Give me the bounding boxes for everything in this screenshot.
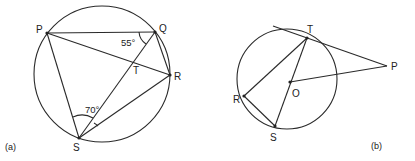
tangent-TP xyxy=(273,26,387,66)
label-T-b: T xyxy=(307,24,313,35)
segment-OP xyxy=(290,66,387,82)
figure-a: P Q R S T 55° 70° (a) xyxy=(5,6,181,153)
geometry-diagram: P Q R S T 55° 70° (a) T O P R S (b) xyxy=(0,0,415,161)
label-R-a: R xyxy=(174,71,181,82)
label-P-b: P xyxy=(391,61,398,72)
angle-arc-S xyxy=(73,115,93,118)
segment-PR xyxy=(47,33,170,75)
label-P-a: P xyxy=(36,24,43,35)
angle-arc-S2 xyxy=(94,123,98,126)
angle-arc-Q xyxy=(139,32,146,44)
caption-a: (a) xyxy=(5,142,16,152)
points-b xyxy=(242,36,308,127)
label-T-a: T xyxy=(133,65,139,76)
label-O-b: O xyxy=(292,88,300,99)
label-Q-a: Q xyxy=(159,23,167,34)
segment-PS xyxy=(47,33,79,138)
label-S-b: S xyxy=(270,132,277,143)
angle-label-55: 55° xyxy=(121,37,136,48)
points-a xyxy=(45,30,171,139)
circle-b xyxy=(237,29,337,129)
label-R-b: R xyxy=(233,94,240,105)
label-S-a: S xyxy=(73,142,80,153)
angle-label-70: 70° xyxy=(85,104,100,115)
segment-QR xyxy=(155,32,170,75)
caption-b: (b) xyxy=(371,141,382,151)
figure-b: T O P R S (b) xyxy=(233,24,398,151)
